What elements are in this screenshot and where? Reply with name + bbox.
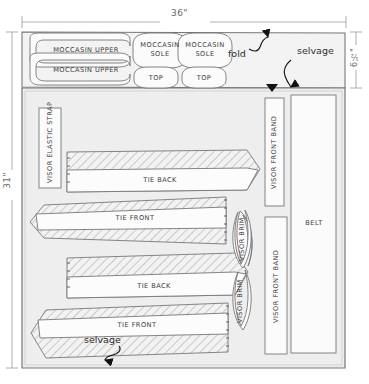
- piece-belt: [291, 95, 336, 353]
- layout-svg: [0, 0, 369, 384]
- piece-visor-front-band-2: [265, 217, 287, 354]
- piece-visor-front-band-1: [265, 98, 284, 206]
- dimension-width-label: 36": [171, 8, 188, 18]
- dimension-top-band-label: 6½": [350, 48, 359, 67]
- piece-tie-front-2: [31, 303, 229, 358]
- annotation-selvage-top: selvage: [297, 45, 334, 56]
- annotation-fold: fold: [228, 48, 246, 59]
- piece-tie-front-1: [30, 197, 227, 244]
- piece-tie-back-2: [67, 253, 248, 298]
- cutting-layout-diagram: 36" 31" 6½" fold selvage selvage MOCCASI…: [0, 0, 369, 384]
- dimension-height-label: 31": [2, 172, 12, 189]
- piece-moccasin-sole-2: [178, 33, 232, 68]
- piece-top-2: [182, 67, 226, 88]
- piece-visor-elastic-strap: [39, 108, 61, 188]
- piece-top-1: [134, 67, 178, 88]
- annotation-selvage-bottom: selvage: [84, 334, 121, 345]
- piece-tie-back-1: [67, 150, 260, 192]
